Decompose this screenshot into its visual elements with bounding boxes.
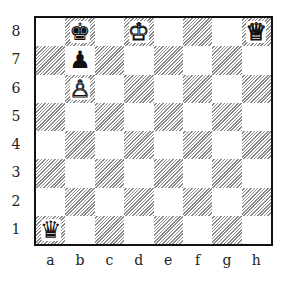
square-h6 [242,75,271,103]
square-a1: ♛ [36,216,65,244]
rank-label-4: 4 [9,136,23,152]
square-e1 [154,216,183,244]
square-b6: ♙ [65,75,94,103]
square-f5 [183,103,212,131]
square-c7 [95,46,124,74]
square-h5 [242,103,271,131]
chess-board: ♚♔♕♟♙♛ [34,16,273,246]
square-f8 [183,18,212,46]
square-g6 [212,75,241,103]
square-h3 [242,159,271,187]
square-a4 [36,131,65,159]
square-f1 [183,216,212,244]
square-b4 [65,131,94,159]
square-b7: ♟ [65,46,94,74]
square-d4 [124,131,153,159]
square-d7 [124,46,153,74]
square-h4 [242,131,271,159]
square-b3 [65,159,94,187]
square-c4 [95,131,124,159]
square-f3 [183,159,212,187]
square-c2 [95,188,124,216]
black-pawn-icon: ♟ [69,48,91,72]
square-d6 [124,75,153,103]
square-d1 [124,216,153,244]
square-f6 [183,75,212,103]
square-a3 [36,159,65,187]
file-label-b: b [65,252,94,268]
square-d3 [124,159,153,187]
square-b2 [65,188,94,216]
file-label-h: h [242,252,271,268]
square-c3 [95,159,124,187]
file-label-f: f [183,252,212,268]
square-e2 [154,188,183,216]
file-label-a: a [36,252,65,268]
rank-label-5: 5 [9,108,23,124]
square-h7 [242,46,271,74]
rank-label-8: 8 [9,23,23,39]
square-g5 [212,103,241,131]
black-king-icon: ♚ [69,20,91,44]
square-a2 [36,188,65,216]
square-e7 [154,46,183,74]
square-h8: ♕ [242,18,271,46]
square-c5 [95,103,124,131]
square-a5 [36,103,65,131]
square-d5 [124,103,153,131]
square-g3 [212,159,241,187]
square-h1 [242,216,271,244]
square-f7 [183,46,212,74]
rank-label-7: 7 [9,51,23,67]
square-c1 [95,216,124,244]
file-label-d: d [124,252,153,268]
square-g4 [212,131,241,159]
square-a6 [36,75,65,103]
square-f4 [183,131,212,159]
square-e6 [154,75,183,103]
square-g8 [212,18,241,46]
square-a8 [36,18,65,46]
square-c8 [95,18,124,46]
square-e4 [154,131,183,159]
square-d8: ♔ [124,18,153,46]
square-g7 [212,46,241,74]
white-pawn-icon: ♙ [69,77,91,101]
file-label-g: g [212,252,241,268]
rank-label-2: 2 [9,193,23,209]
white-queen-icon: ♕ [246,20,268,44]
square-d2 [124,188,153,216]
file-label-c: c [95,252,124,268]
square-h2 [242,188,271,216]
black-queen-icon: ♛ [40,218,62,242]
square-b1 [65,216,94,244]
square-f2 [183,188,212,216]
rank-label-1: 1 [9,221,23,237]
square-b8: ♚ [65,18,94,46]
file-label-e: e [154,252,183,268]
square-g1 [212,216,241,244]
square-e8 [154,18,183,46]
square-c6 [95,75,124,103]
square-b5 [65,103,94,131]
square-a7 [36,46,65,74]
white-king-icon: ♔ [128,20,150,44]
rank-label-3: 3 [9,164,23,180]
rank-label-6: 6 [9,80,23,96]
square-e5 [154,103,183,131]
square-g2 [212,188,241,216]
square-e3 [154,159,183,187]
